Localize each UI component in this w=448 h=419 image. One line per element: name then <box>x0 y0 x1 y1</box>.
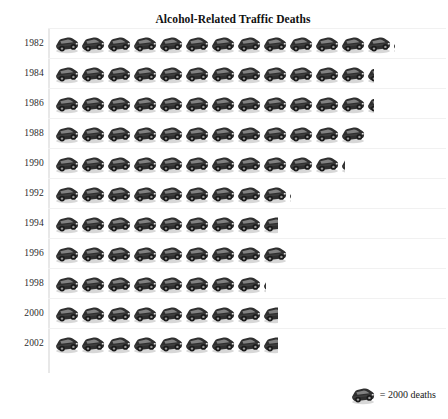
car-icon <box>158 182 184 204</box>
car-icon <box>80 212 106 234</box>
car-icon <box>184 182 210 204</box>
pictogram-rows: 1982198419861988199019921994199619982000… <box>0 28 448 358</box>
pictogram-row: 2002 <box>0 328 448 358</box>
car-icon <box>158 242 184 264</box>
car-icon <box>54 302 80 324</box>
pictogram-row: 1994 <box>0 208 448 238</box>
car-icon <box>340 92 366 114</box>
car-icon-partial <box>392 32 395 54</box>
car-icon-partial <box>262 212 278 234</box>
car-icon <box>262 122 288 144</box>
row-icons <box>48 28 448 58</box>
row-icons <box>48 58 448 88</box>
car-icon <box>106 182 132 204</box>
car-icon <box>262 152 288 174</box>
car-icon <box>262 182 288 204</box>
y-axis-tick-label: 1990 <box>0 158 48 168</box>
car-icon <box>314 152 340 174</box>
car-icon <box>210 272 236 294</box>
car-icon <box>340 122 366 144</box>
car-icon <box>288 32 314 54</box>
car-icon-partial <box>262 332 278 354</box>
y-axis-tick-label: 1986 <box>0 98 48 108</box>
car-icon <box>210 32 236 54</box>
car-icon <box>54 182 80 204</box>
car-icon <box>106 152 132 174</box>
row-icons <box>48 208 448 238</box>
car-icon <box>106 272 132 294</box>
car-icon <box>314 122 340 144</box>
car-icon <box>210 122 236 144</box>
car-icon <box>262 32 288 54</box>
car-icon <box>80 122 106 144</box>
y-axis-tick-label: 1992 <box>0 188 48 198</box>
car-icon <box>184 92 210 114</box>
car-icon-partial <box>262 302 278 324</box>
car-icon <box>80 332 106 354</box>
y-axis-tick-label: 2000 <box>0 308 48 318</box>
car-icon <box>210 302 236 324</box>
plot-area: 1982198419861988199019921994199619982000… <box>0 28 448 373</box>
car-icon <box>236 92 262 114</box>
car-icon <box>80 92 106 114</box>
car-icon-partial <box>262 272 266 294</box>
car-icon <box>236 332 262 354</box>
y-axis-tick-label: 1996 <box>0 248 48 258</box>
car-icon <box>54 32 80 54</box>
car-icon <box>158 272 184 294</box>
car-icon <box>80 242 106 264</box>
car-icon <box>106 242 132 264</box>
y-axis-tick-label: 2002 <box>0 338 48 348</box>
car-icon <box>132 152 158 174</box>
chart-legend: = 2000 deaths <box>0 383 436 405</box>
car-icon <box>106 62 132 84</box>
car-icon <box>132 62 158 84</box>
car-icon <box>158 62 184 84</box>
car-icon <box>106 302 132 324</box>
car-icon <box>54 152 80 174</box>
car-icon <box>184 302 210 324</box>
car-icon <box>210 212 236 234</box>
car-icon <box>236 212 262 234</box>
car-icon <box>106 122 132 144</box>
car-icon <box>54 122 80 144</box>
car-icon <box>132 92 158 114</box>
car-icon <box>236 62 262 84</box>
car-icon <box>340 62 366 84</box>
y-axis-tick-label: 1998 <box>0 278 48 288</box>
car-icon <box>236 242 262 264</box>
car-icon <box>106 332 132 354</box>
car-icon <box>288 122 314 144</box>
car-icon <box>54 272 80 294</box>
row-icons <box>48 178 448 208</box>
car-icon <box>54 212 80 234</box>
pictogram-chart: Alcohol-Related Traffic Deaths 198219841… <box>0 0 448 419</box>
car-icon <box>184 62 210 84</box>
car-icon <box>314 62 340 84</box>
car-icon <box>236 32 262 54</box>
row-icons <box>48 88 448 118</box>
car-icon <box>158 212 184 234</box>
car-icon <box>158 32 184 54</box>
car-icon <box>54 332 80 354</box>
car-icon <box>288 152 314 174</box>
legend-label: = 2000 deaths <box>380 389 436 400</box>
car-icon <box>262 242 288 264</box>
car-icon <box>184 32 210 54</box>
car-icon <box>132 32 158 54</box>
pictogram-row: 1998 <box>0 268 448 298</box>
car-icon <box>106 32 132 54</box>
car-icon <box>314 32 340 54</box>
row-icons <box>48 328 448 358</box>
car-icon <box>262 92 288 114</box>
car-icon <box>54 92 80 114</box>
legend-car-icon <box>350 383 376 405</box>
car-icon <box>184 122 210 144</box>
car-icon <box>132 212 158 234</box>
row-icons <box>48 238 448 268</box>
pictogram-row: 1996 <box>0 238 448 268</box>
car-icon <box>236 152 262 174</box>
row-icons <box>48 268 448 298</box>
car-icon <box>80 182 106 204</box>
car-icon <box>184 332 210 354</box>
